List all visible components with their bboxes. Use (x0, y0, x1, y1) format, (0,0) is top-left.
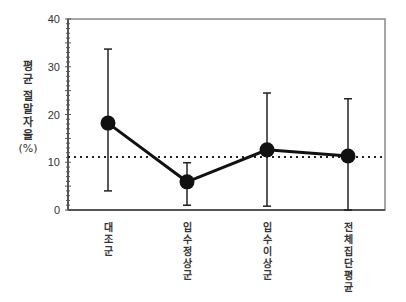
data-point (341, 149, 356, 164)
data-point (260, 142, 275, 157)
y-axis-label-unit: (%) (14, 142, 42, 155)
x-tick-label: 입수정상군 (179, 222, 195, 282)
y-tick-label: 20 (48, 109, 60, 121)
data-point (180, 174, 195, 189)
data-point (101, 116, 116, 131)
x-tick-label: 전체집단평균 (340, 222, 356, 294)
y-tick-label: 10 (48, 156, 60, 168)
y-axis-label: 평균절말자율 (%) (14, 60, 42, 155)
x-tick-label: 대조군 (100, 222, 116, 258)
plot-frame (68, 19, 385, 210)
y-tick-label: 30 (48, 61, 60, 73)
y-axis-label-text: 평균절말자율 (14, 60, 42, 142)
x-tick-label: 입수이상군 (259, 222, 275, 282)
series-line (108, 123, 348, 182)
y-tick-label: 40 (48, 13, 60, 25)
y-tick-label: 0 (54, 204, 60, 216)
